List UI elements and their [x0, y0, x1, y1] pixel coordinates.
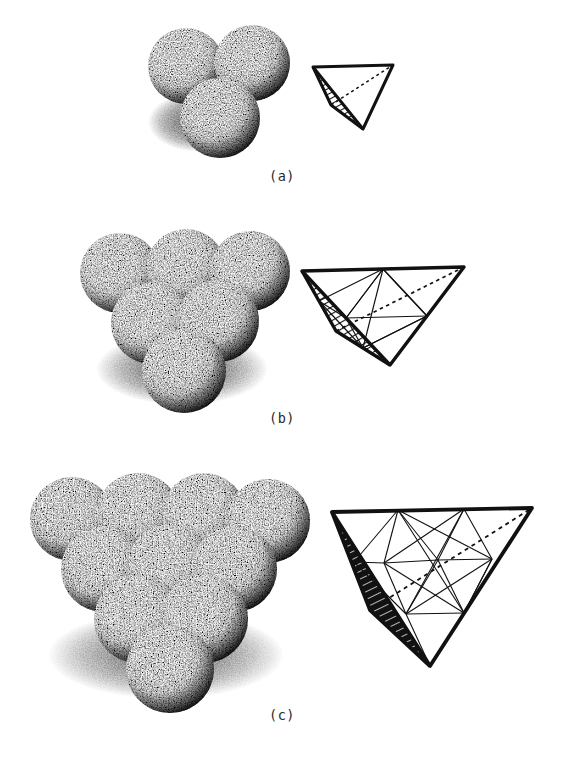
tetrahedron-a [305, 55, 405, 140]
sphere [142, 329, 226, 413]
panel-b: (b) [0, 205, 564, 440]
tetrahedron-b [292, 253, 477, 383]
cluster-c [28, 467, 308, 717]
tetrahedron-svg-c [318, 490, 558, 685]
cluster-b [78, 225, 298, 415]
tetrahedron-svg-b [292, 253, 477, 383]
sphere [180, 78, 260, 158]
tetrahedron-c [318, 490, 558, 685]
tetra-hidden-edge [336, 267, 464, 331]
sphere-cluster-svg-b [78, 225, 298, 415]
figure-tetrahedral-sphere-packing: (a) [0, 0, 564, 765]
sphere-cluster-svg-c [28, 467, 308, 717]
panel-a: (a) [0, 0, 564, 200]
sphere-group-c [30, 473, 310, 713]
panel-caption-c: (c) [0, 707, 564, 723]
sphere-group-b [80, 229, 290, 413]
sphere [126, 625, 214, 713]
tetrahedron-svg-a [305, 55, 405, 140]
panel-caption-a: (a) [0, 168, 564, 184]
sphere-group-a [148, 25, 290, 158]
panel-caption-b: (b) [0, 410, 564, 426]
sphere-cluster-svg-a [140, 18, 310, 168]
cluster-a [140, 18, 310, 168]
panel-c: (c) [0, 445, 564, 765]
